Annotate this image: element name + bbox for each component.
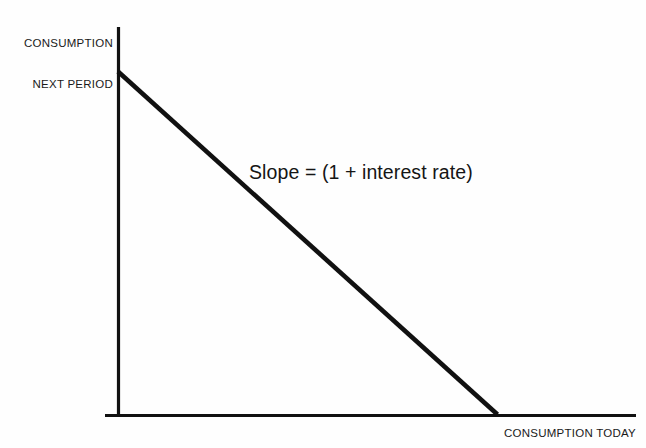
budget-constraint-line bbox=[118, 72, 498, 415]
x-axis-label: CONSUMPTION TODAY bbox=[380, 427, 636, 441]
y-axis-label-line-1: CONSUMPTION bbox=[0, 37, 113, 51]
y-axis-label: CONSUMPTION NEXT PERIOD bbox=[0, 10, 113, 118]
y-axis-label-line-2: NEXT PERIOD bbox=[0, 78, 113, 92]
budget-constraint-figure: CONSUMPTION NEXT PERIOD CONSUMPTION TODA… bbox=[0, 0, 646, 448]
slope-annotation: Slope = (1 + interest rate) bbox=[249, 161, 473, 184]
